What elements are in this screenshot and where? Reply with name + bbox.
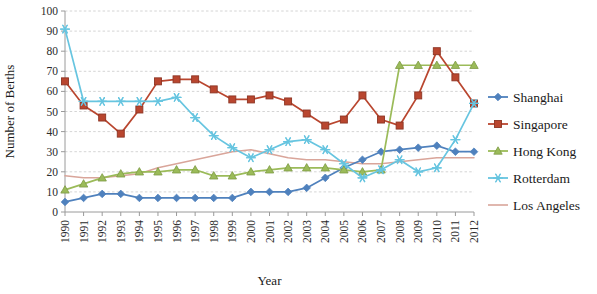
chart-container: 0102030405060708090100199019911992199319… <box>0 0 597 294</box>
y-tick-label: 90 <box>47 25 59 37</box>
data-point-asterisk <box>98 98 107 106</box>
x-tick-label: 1996 <box>171 220 183 243</box>
data-point-asterisk <box>284 138 293 146</box>
y-tick-label: 70 <box>47 65 59 77</box>
data-point-diamond <box>433 142 441 150</box>
x-tick-label: 2007 <box>375 220 387 243</box>
line-chart: 0102030405060708090100199019911992199319… <box>0 0 597 294</box>
data-point-diamond <box>321 174 329 182</box>
data-point-square <box>99 114 106 121</box>
x-tick-label: 2002 <box>282 220 294 243</box>
x-tick-label: 1994 <box>133 220 145 243</box>
data-point-square <box>285 98 292 105</box>
data-point-square <box>62 78 69 85</box>
data-point-square <box>210 86 217 93</box>
legend-label: Los Angeles <box>513 198 580 213</box>
x-tick-label: 2009 <box>412 220 424 243</box>
data-point-square <box>322 122 329 129</box>
x-tick-label: 1990 <box>59 220 71 243</box>
data-point-square <box>117 130 124 137</box>
x-tick-label: 1991 <box>78 220 90 243</box>
data-point-diamond <box>247 188 255 196</box>
data-point-diamond <box>470 148 478 156</box>
x-tick-label: 2006 <box>356 220 368 243</box>
data-point-diamond <box>229 194 237 202</box>
data-point-diamond <box>154 194 162 202</box>
x-tick-label: 2005 <box>338 220 350 243</box>
data-point-diamond <box>266 188 274 196</box>
x-tick-label: 1999 <box>226 220 238 243</box>
series-rotterdam <box>61 25 479 181</box>
y-tick-label: 50 <box>47 106 59 118</box>
data-point-asterisk <box>494 174 503 182</box>
x-tick-label: 2010 <box>431 220 443 243</box>
y-tick-label: 60 <box>47 85 59 97</box>
data-point-diamond <box>191 194 199 202</box>
data-point-square <box>154 78 161 85</box>
data-point-square <box>303 110 310 117</box>
data-point-square <box>136 106 143 113</box>
x-tick-label: 2004 <box>319 220 331 243</box>
data-point-asterisk <box>302 136 311 144</box>
x-tick-label: 1998 <box>208 220 220 243</box>
data-point-asterisk <box>247 154 256 162</box>
legend-label: Singapore <box>513 117 568 132</box>
x-tick-label: 1997 <box>189 220 201 243</box>
legend-item-rotterdam[interactable]: Rotterdam <box>488 171 570 186</box>
legend-item-hong-kong[interactable]: Hong Kong <box>488 144 577 159</box>
x-tick-label: 1995 <box>152 220 164 243</box>
y-tick-label: 30 <box>47 146 59 158</box>
data-point-asterisk <box>451 136 460 144</box>
x-tick-label: 2003 <box>301 220 313 243</box>
data-point-diamond <box>210 194 218 202</box>
x-axis-title: Year <box>258 273 283 288</box>
data-point-square <box>192 76 199 83</box>
data-point-asterisk <box>154 98 163 106</box>
legend-label: Hong Kong <box>513 144 577 159</box>
y-tick-label: 10 <box>47 186 59 198</box>
data-point-asterisk <box>432 164 441 172</box>
legend-item-shanghai[interactable]: Shanghai <box>488 90 563 105</box>
data-point-diamond <box>494 93 502 101</box>
legend-item-singapore[interactable]: Singapore <box>488 117 568 132</box>
x-tick-label: 1992 <box>96 220 108 243</box>
data-point-diamond <box>80 194 88 202</box>
x-tick-label: 2008 <box>394 220 406 243</box>
x-tick-label: 2011 <box>449 220 461 243</box>
data-point-asterisk <box>116 98 125 106</box>
y-tick-label: 0 <box>52 206 58 218</box>
data-point-diamond <box>61 198 69 206</box>
legend-label: Rotterdam <box>513 171 570 186</box>
data-point-square <box>378 116 385 123</box>
series-singapore <box>62 48 478 137</box>
x-tick-label: 2001 <box>264 220 276 243</box>
data-point-diamond <box>414 144 422 152</box>
data-point-diamond <box>452 148 460 156</box>
y-axis-title: Number of Berths <box>2 65 17 159</box>
data-point-diamond <box>284 188 292 196</box>
data-point-square <box>452 74 459 81</box>
y-tick-label: 100 <box>41 5 59 17</box>
data-point-square <box>340 116 347 123</box>
data-point-diamond <box>303 184 311 192</box>
data-point-square <box>266 92 273 99</box>
legend-label: Shanghai <box>513 90 563 105</box>
data-point-square <box>359 92 366 99</box>
data-point-square <box>229 96 236 103</box>
legend: ShanghaiSingaporeHong KongRotterdamLos A… <box>488 90 580 213</box>
data-point-diamond <box>117 190 125 198</box>
x-tick-label: 1993 <box>115 220 127 243</box>
data-point-diamond <box>98 190 106 198</box>
data-point-diamond <box>173 194 181 202</box>
data-point-square <box>433 48 440 55</box>
series-hong-kong <box>61 61 478 193</box>
data-point-square <box>173 76 180 83</box>
data-point-square <box>396 122 403 129</box>
x-tick-label: 2012 <box>468 220 480 243</box>
data-point-diamond <box>396 146 404 154</box>
x-tick-label: 2000 <box>245 220 257 243</box>
data-point-diamond <box>136 194 144 202</box>
y-tick-label: 20 <box>47 166 59 178</box>
y-tick-label: 40 <box>47 126 59 138</box>
legend-item-los-angeles[interactable]: Los Angeles <box>488 198 580 213</box>
